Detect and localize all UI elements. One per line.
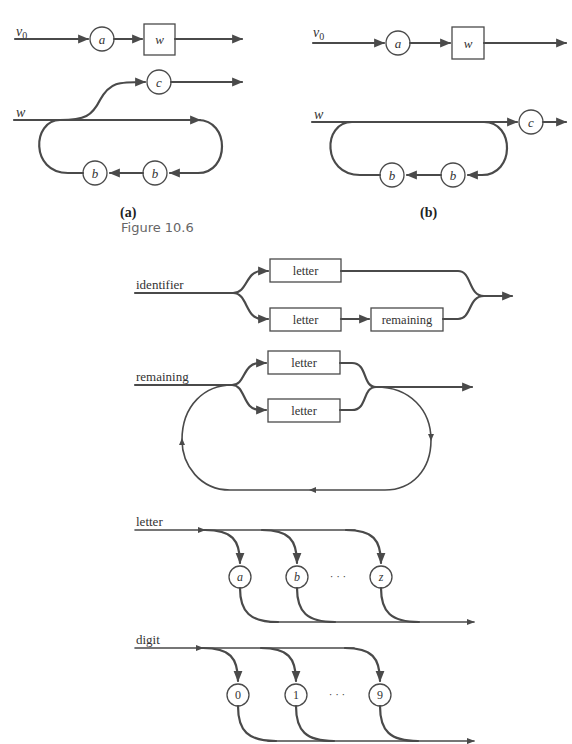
label-w: w [16,105,26,120]
node-letter-z-label: z [378,570,384,584]
edge-to-1 [261,648,296,681]
diagram-remaining: remaining letter letter [135,351,472,493]
diagram-letter: letter a b · · · z [135,514,474,622]
edge-split-top-r [232,363,266,385]
edge-split-top [233,271,268,293]
diagram-identifier: identifier letter letter remaining [135,259,512,331]
node-b2-label: b [152,166,159,181]
node-b1-b-label: b [389,168,396,183]
edge-from-1 [296,706,334,741]
box-remaining-label: remaining [382,313,433,327]
loop-arrow-left [179,438,185,445]
box-letter-bottom-r-label: letter [291,404,318,418]
edge-merge-bottom [443,296,484,319]
node-digit-1-label: 1 [293,688,299,702]
label-w-b: w [314,107,324,122]
node-letter-b-label: b [294,570,300,584]
edge-split-bottom-r [232,385,266,410]
edge-split-bottom [233,293,268,319]
edge-to-0 [203,648,238,681]
edge-loop-left [39,120,83,173]
node-b1-label: b [92,166,99,181]
edge-from-0 [238,706,276,741]
caption-a: (a) [120,205,137,221]
digit-ellipsis: · · · [329,688,346,700]
node-b2-b-label: b [450,168,457,183]
edge-to-b [262,530,297,563]
edge-loop-left-b [330,122,380,175]
label-v0-b: v0 [313,25,324,42]
box-w-b-label: w [464,36,473,51]
box-letter-bottom-label: letter [293,313,320,327]
node-digit-0-label: 0 [235,688,241,702]
edge-to-z [346,530,381,563]
edge-loop-right-b [468,122,507,175]
edge-to-9 [345,648,380,681]
node-a-b-label: a [395,36,402,51]
label-letter: letter [136,514,163,529]
edge-from-z [381,588,419,622]
node-letter-a-label: a [237,570,243,584]
panel-b: v0 a w w c b b (b) [312,25,566,221]
box-letter-top-r-label: letter [291,356,318,370]
edge-from-9 [380,706,418,741]
edge-to-a [205,530,240,563]
node-digit-9-label: 9 [377,688,383,702]
panel-a: v0 a w w c b b (a) Figure 10.6 [14,24,242,235]
label-digit: digit [136,632,160,647]
edge-from-a [240,588,278,622]
box-w-label: w [155,32,164,47]
letter-ellipsis: · · · [330,570,347,582]
edge-w-c [14,82,145,120]
label-remaining: remaining [136,369,189,384]
edge-from-b [297,588,335,622]
node-c-b-label: c [528,115,534,130]
node-c-label: c [156,75,162,90]
node-a-label: a [99,32,106,47]
box-letter-top-label: letter [293,264,320,278]
diagram-digit: digit 0 1 · · · 9 [135,632,474,741]
caption-b: (b) [420,205,437,221]
figure-canvas: v0 a w w c b b (a) Figure 10.6 v0 a w w [0,0,572,744]
edge-loop-right [170,120,222,173]
label-identifier: identifier [136,277,184,292]
loop-arrow-right [428,434,434,441]
edge-merge-top [341,271,484,296]
edge-merge-top-r [340,363,376,387]
edge-merge-bottom-r [340,387,376,410]
loop-arrow-bottom [309,487,316,493]
figure-label: Figure 10.6 [121,220,194,235]
